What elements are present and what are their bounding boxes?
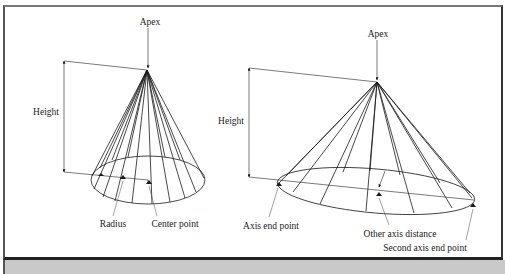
other-axis-distance-label: Other axis distance	[364, 229, 437, 239]
right-height-label: Height	[218, 116, 244, 126]
right-cone: Apex Height	[218, 29, 476, 253]
radius-leader	[113, 181, 123, 216]
right-apex-label: Apex	[368, 29, 389, 39]
left-height-top-line	[64, 61, 147, 70]
second-axis-end-point-label: Second axis end point	[383, 243, 467, 253]
left-height-label: Height	[33, 107, 59, 117]
center-point-label: Center point	[151, 219, 199, 229]
right-base-ellipse	[275, 160, 476, 221]
left-apex-label: Apex	[140, 17, 161, 27]
axis-end-point-leader	[269, 188, 278, 217]
center-point-leader	[149, 186, 157, 216]
other-axis-marker	[376, 192, 382, 196]
right-height-top-line	[249, 68, 377, 82]
left-cone: Apex Height	[33, 17, 205, 229]
cone-diagram: Apex Height	[0, 0, 505, 274]
second-axis-end-point-leader	[466, 209, 473, 240]
other-axis-distance-arrow	[379, 171, 385, 187]
left-edge-marker	[98, 173, 104, 176]
right-cone-generators	[279, 82, 472, 213]
other-axis-distance-leader	[379, 198, 389, 225]
axis-end-point-label: Axis end point	[243, 221, 299, 231]
axis-end-point-marker	[276, 182, 282, 186]
radius-label: Radius	[100, 219, 127, 229]
